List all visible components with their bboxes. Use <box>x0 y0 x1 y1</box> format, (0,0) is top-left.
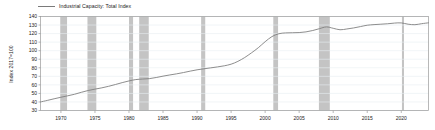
recession-band <box>201 17 205 111</box>
y-tick-label: 70 <box>31 73 37 79</box>
y-tick-label: 110 <box>29 39 37 45</box>
recession-band <box>139 17 149 111</box>
data-series-group <box>41 23 429 102</box>
recession-band <box>129 17 133 111</box>
series-line-industrial-capacity <box>41 23 429 102</box>
industrial-capacity-chart: Industrial Capacity: Total Index Index 2… <box>0 0 435 130</box>
y-tick-label: 90 <box>31 56 37 62</box>
x-tick-label: 1980 <box>123 115 134 121</box>
y-tick-label: 120 <box>29 30 38 36</box>
recession-band <box>319 17 330 111</box>
y-tick-label: 50 <box>31 90 37 96</box>
x-tick-label: 2015 <box>362 115 373 121</box>
y-tick-label: 30 <box>31 107 37 113</box>
plot-frame <box>41 17 429 111</box>
y-tick-label: 100 <box>29 47 38 53</box>
plot-svg: 14013012011010090807060504030 1970197519… <box>0 0 435 130</box>
x-tick-label: 1970 <box>55 115 66 121</box>
y-tick-label: 80 <box>31 65 37 71</box>
gridlines-group <box>41 17 429 111</box>
x-tick-label: 1975 <box>89 115 100 121</box>
y-tick-label: 130 <box>29 22 38 28</box>
y-axis-ticks-group: 14013012011010090807060504030 <box>29 13 41 113</box>
y-tick-label: 140 <box>29 13 38 19</box>
recession-band <box>402 17 404 111</box>
y-tick-label: 40 <box>31 99 37 105</box>
x-tick-label: 1995 <box>226 115 237 121</box>
x-axis-ticks-group: 1970197519801985199019952000200520102015… <box>55 111 407 121</box>
axes-frame <box>41 17 429 111</box>
recession-band <box>87 17 96 111</box>
x-tick-label: 2010 <box>328 115 339 121</box>
plot-area-wrapper: 14013012011010090807060504030 1970197519… <box>0 0 435 130</box>
x-tick-label: 2005 <box>294 115 305 121</box>
x-tick-label: 2020 <box>396 115 407 121</box>
x-tick-label: 2000 <box>260 115 271 121</box>
x-tick-label: 1985 <box>157 115 168 121</box>
y-tick-label: 60 <box>31 82 37 88</box>
x-tick-label: 1990 <box>191 115 202 121</box>
recession-band <box>273 17 278 111</box>
